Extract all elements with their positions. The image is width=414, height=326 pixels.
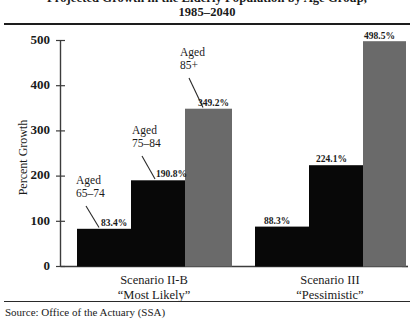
bar-scenario3-aged-75-84 [309,165,363,266]
category-label-scenario-3-line-2: “Pessimistic” [260,288,400,303]
series-annotation-aged-75-84-line-1: Aged [132,124,161,137]
y-tick-label-100: 100 [8,213,50,229]
y-tick-label-400: 400 [8,77,50,93]
chart-title-line-2: 1985–2040 [0,5,414,19]
value-label-scenario3-aged-75-84: 224.1% [316,154,347,164]
y-axis-label: Percent Growth [16,98,31,218]
series-annotation-aged-65-74-line-2: 65–74 [76,187,105,200]
value-label-scenario3-aged-85-plus: 498.5% [364,31,395,41]
series-annotation-aged-75-84-line-2: 75–84 [132,137,161,150]
value-label-scenario2b-aged-65-74: 83.4% [101,218,127,228]
category-label-scenario-3-line-1: Scenario III [260,273,400,288]
series-annotation-aged-65-74: Aged 65–74 [76,174,105,199]
value-label-scenario2b-aged-75-84: 190.8% [156,169,187,179]
bar-scenario2b-aged-75-84 [131,180,185,266]
series-annotation-aged-65-74-line-1: Aged [76,174,105,187]
category-label-scenario-2b: Scenario II-B “Most Likely” [84,273,224,302]
source-note: Source: Office of the Actuary (SSA) [5,306,165,318]
y-tick-label-300: 300 [8,122,50,138]
series-annotation-aged-85-plus: Aged 85+ [180,46,205,71]
bar-scenario3-aged-85-plus [363,41,406,266]
source-divider-rule [4,301,410,302]
bar-scenario2b-aged-65-74 [77,229,131,267]
series-annotation-aged-75-84: Aged 75–84 [132,124,161,149]
category-label-scenario-2b-line-2: “Most Likely” [84,288,224,303]
chart-canvas [0,30,414,290]
title-divider-rule [4,23,410,25]
series-annotation-aged-85-plus-line-1: Aged [180,46,205,59]
category-label-scenario-2b-line-1: Scenario II-B [84,273,224,288]
bar-chart [0,30,414,290]
y-tick-label-500: 500 [8,32,50,48]
category-label-scenario-3: Scenario III “Pessimistic” [260,273,400,302]
bar-scenario3-aged-65-74 [255,227,309,267]
value-label-scenario3-aged-65-74: 88.3% [264,216,290,226]
bar-scenario2b-aged-85-plus [185,109,232,267]
leader-line-aged-65-74 [86,206,99,228]
leader-line-aged-75-84 [142,156,155,179]
y-tick-label-200: 200 [8,167,50,183]
y-tick-label-0: 0 [8,258,50,274]
value-label-scenario2b-aged-85-plus: 349.2% [198,98,229,108]
series-annotation-aged-85-plus-line-2: 85+ [180,59,205,72]
chart-title: Projected Growth in the Elderly Populati… [0,0,414,19]
